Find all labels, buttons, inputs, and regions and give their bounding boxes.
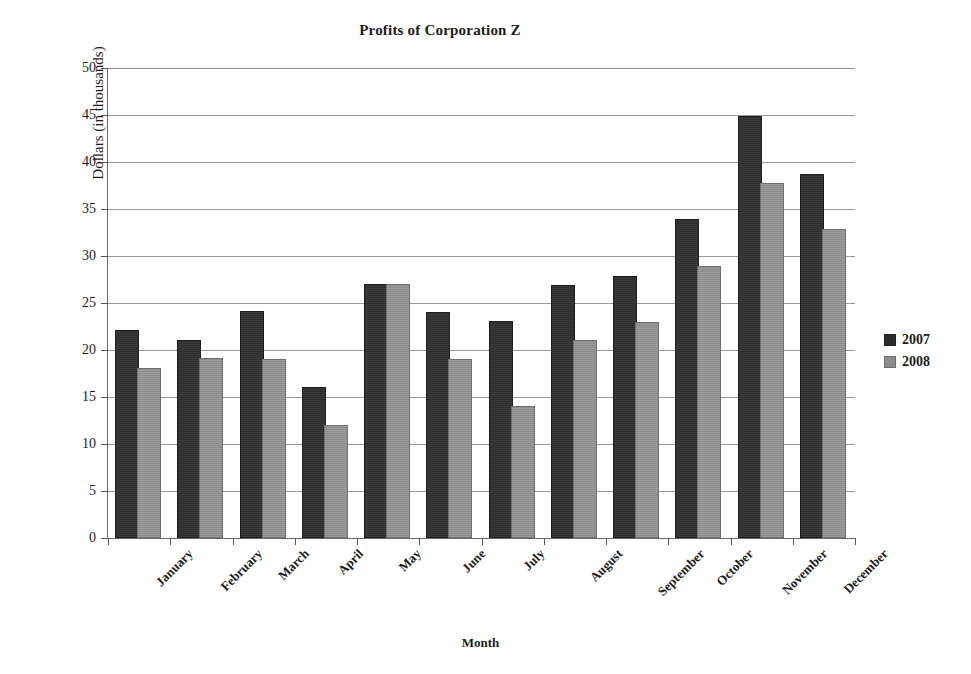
- bar-april-2008: [324, 425, 348, 538]
- bar-january-2007: [115, 330, 139, 538]
- y-axis-tick: [101, 491, 108, 492]
- x-axis-tick-label: October: [713, 546, 756, 589]
- y-axis-tick: [101, 444, 108, 445]
- bar-december-2007: [800, 174, 824, 538]
- bar-october-2007: [675, 219, 699, 538]
- bar-group: [240, 68, 284, 538]
- bar-group: [426, 68, 470, 538]
- y-axis-tick: [101, 397, 108, 398]
- chart-figure: Profits of Corporation Z Dollars (in tho…: [0, 0, 971, 674]
- bar-april-2007: [302, 387, 326, 538]
- y-axis-tick-label: 15: [50, 390, 96, 404]
- bar-group: [177, 68, 221, 538]
- y-axis-tick-label: 45: [50, 108, 96, 122]
- bar-november-2007: [738, 116, 762, 538]
- x-axis-tick-label: April: [335, 546, 367, 578]
- legend-item: 2007: [884, 333, 930, 347]
- x-axis-tick: [482, 538, 483, 545]
- x-axis-tick-label: March: [275, 546, 313, 584]
- x-axis-tick-label: July: [520, 546, 548, 574]
- legend-item: 2008: [884, 355, 930, 369]
- bar-group: [738, 68, 782, 538]
- chart-title: Profits of Corporation Z: [0, 22, 880, 39]
- bar-july-2008: [511, 406, 535, 538]
- bar-june-2008: [448, 359, 472, 538]
- bar-february-2007: [177, 340, 201, 538]
- x-axis-tick: [855, 538, 856, 545]
- legend-label-2007: 2007: [902, 333, 930, 347]
- x-axis-tick: [295, 538, 296, 545]
- bar-july-2007: [489, 321, 513, 538]
- x-axis-tick: [233, 538, 234, 545]
- x-axis-tick: [668, 538, 669, 545]
- y-axis-tick-label: 35: [50, 202, 96, 216]
- y-axis-tick: [101, 209, 108, 210]
- bar-september-2008: [635, 322, 659, 538]
- y-axis-tick-label: 5: [50, 484, 96, 498]
- y-axis-tick-label: 50: [50, 61, 96, 75]
- bar-september-2007: [613, 276, 637, 538]
- bar-march-2007: [240, 311, 264, 538]
- y-axis-tick-label: 25: [50, 296, 96, 310]
- bar-group: [800, 68, 844, 538]
- bar-group: [302, 68, 346, 538]
- y-axis-tick: [101, 538, 108, 539]
- bar-november-2008: [760, 183, 784, 538]
- x-axis-tick: [170, 538, 171, 545]
- x-axis-tick: [793, 538, 794, 545]
- chart-legend: 2007 2008: [884, 333, 930, 377]
- y-axis-tick-label: 40: [50, 155, 96, 169]
- bar-group: [115, 68, 159, 538]
- bar-group: [613, 68, 657, 538]
- bar-group: [675, 68, 719, 538]
- y-axis-tick: [101, 68, 108, 69]
- x-axis-tick: [357, 538, 358, 545]
- bar-january-2008: [137, 368, 161, 538]
- bar-march-2008: [262, 359, 286, 538]
- x-axis-tick: [419, 538, 420, 545]
- y-axis-tick: [101, 115, 108, 116]
- bar-june-2007: [426, 312, 450, 538]
- x-axis-tick-label: June: [458, 546, 488, 576]
- bar-august-2008: [573, 340, 597, 538]
- y-axis-tick: [101, 162, 108, 163]
- legend-swatch-2008-icon: [884, 356, 896, 368]
- x-axis-tick-label: January: [153, 546, 197, 590]
- x-axis-tick: [606, 538, 607, 545]
- plot-area: Dollars (in thousands): [107, 68, 855, 539]
- bar-august-2007: [551, 285, 575, 538]
- y-axis-tick: [101, 303, 108, 304]
- x-axis-title: Month: [107, 635, 854, 651]
- y-axis-tick-label: 30: [50, 249, 96, 263]
- bar-may-2008: [386, 284, 410, 538]
- bar-group: [489, 68, 533, 538]
- bar-october-2008: [697, 266, 721, 538]
- y-axis-tick-label: 10: [50, 437, 96, 451]
- y-axis-tick: [101, 256, 108, 257]
- x-axis-tick-label: May: [396, 546, 425, 575]
- y-axis-tick-label: 0: [50, 531, 96, 545]
- x-axis-tick: [108, 538, 109, 545]
- x-axis-tick-label: November: [779, 546, 831, 598]
- bar-december-2008: [822, 229, 846, 538]
- legend-label-2008: 2008: [902, 355, 930, 369]
- x-axis-tick-label: December: [841, 546, 892, 597]
- y-axis-tick-label: 20: [50, 343, 96, 357]
- x-axis-tick-label: September: [655, 546, 709, 600]
- y-axis-tick: [101, 350, 108, 351]
- x-axis-tick-label: February: [217, 546, 266, 595]
- legend-swatch-2007-icon: [884, 334, 896, 346]
- bar-february-2008: [199, 358, 223, 538]
- x-axis-tick-label: August: [587, 546, 626, 585]
- bar-group: [364, 68, 408, 538]
- bar-group: [551, 68, 595, 538]
- x-axis-tick: [544, 538, 545, 545]
- x-axis-tick: [731, 538, 732, 545]
- bar-may-2007: [364, 284, 388, 538]
